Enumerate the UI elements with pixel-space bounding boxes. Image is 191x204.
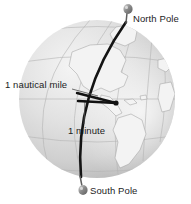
north-pole-label: North Pole <box>133 14 179 24</box>
angle-vertex-dot <box>113 100 118 105</box>
north-pin-icon <box>123 4 132 23</box>
south-pin-icon <box>78 176 87 195</box>
nautical-mile-label: 1 nautical mile <box>5 80 67 90</box>
south-pole-label: South Pole <box>90 186 137 196</box>
minute-label: 1 minute <box>68 126 105 136</box>
globe-diagram: North Pole South Pole 1 nautical mile 1 … <box>0 0 191 204</box>
globe-illustration <box>0 0 191 204</box>
